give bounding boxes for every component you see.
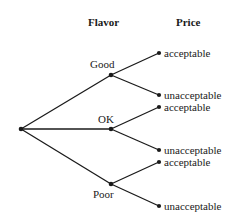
node-poor	[109, 182, 114, 187]
leaf-label: acceptable	[164, 156, 210, 168]
leaf-label: acceptable	[164, 101, 210, 113]
leaf-node	[157, 148, 161, 152]
header-price: Price	[176, 16, 200, 28]
edge-good-unacceptable	[111, 75, 159, 95]
label-good: Good	[90, 58, 114, 70]
leaf-label: acceptable	[164, 47, 210, 59]
node-ok	[109, 127, 114, 132]
edge-ok-unacceptable	[111, 129, 159, 150]
leaf-label: unacceptable	[164, 200, 221, 212]
node-good	[109, 73, 114, 78]
label-ok: OK	[98, 113, 114, 125]
root-node	[19, 127, 24, 132]
leaf-label: unacceptable	[164, 144, 221, 156]
leaf-node	[157, 105, 161, 109]
leaf-label: unacceptable	[164, 89, 221, 101]
edge-poor-acceptable	[111, 162, 159, 184]
edge-root-poor	[21, 129, 111, 184]
leaf-node	[157, 160, 161, 164]
leaf-node	[157, 204, 161, 208]
edge-poor-unacceptable	[111, 184, 159, 206]
leaf-node	[157, 51, 161, 55]
edge-ok-acceptable	[111, 107, 159, 129]
header-flavor: Flavor	[88, 16, 119, 28]
label-poor: Poor	[93, 188, 114, 200]
leaf-node	[157, 93, 161, 97]
edge-good-acceptable	[111, 53, 159, 75]
